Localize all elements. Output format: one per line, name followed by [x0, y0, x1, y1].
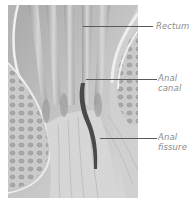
label-rectum: Rectum	[156, 21, 189, 31]
label-anal-canal-line1: Anal	[158, 73, 181, 83]
anal-fissure-leader-line	[100, 138, 157, 139]
anal-canal-leader-line	[86, 79, 157, 80]
rectum-anal-canal-illustration	[8, 5, 138, 198]
rectum-leader-line	[83, 26, 153, 27]
label-anal-canal: Anal canal	[158, 73, 181, 93]
label-rectum-text: Rectum	[156, 21, 189, 31]
label-anal-fissure-line2: fissure	[158, 142, 187, 152]
label-anal-canal-line2: canal	[158, 83, 181, 93]
label-anal-fissure: Anal fissure	[158, 132, 187, 152]
anatomy-figure: Rectum Anal canal Anal fissure	[0, 0, 195, 210]
label-anal-fissure-line1: Anal	[158, 132, 187, 142]
